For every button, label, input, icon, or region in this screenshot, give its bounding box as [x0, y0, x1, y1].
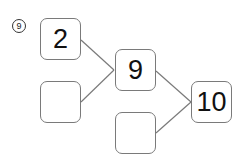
problem-number: 9 [12, 19, 26, 33]
box-bottom-left-blank[interactable] [40, 81, 81, 123]
box-bottom-middle-blank[interactable] [115, 112, 156, 154]
box-middle: 9 [115, 49, 156, 91]
box-right: 10 [191, 81, 232, 123]
box-top-left: 2 [40, 18, 81, 60]
